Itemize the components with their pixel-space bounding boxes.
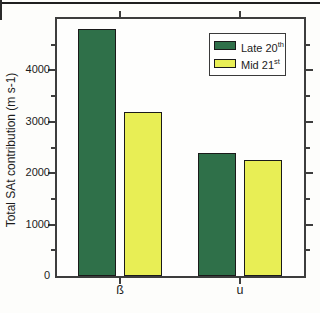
legend-label: Mid 21st (241, 56, 280, 71)
legend-swatch-yellow (214, 59, 236, 68)
bar-late-20th-u (198, 153, 236, 276)
y-tick-right (306, 44, 310, 46)
y-tick-right (306, 147, 310, 149)
top-rule-divider (0, 2, 320, 4)
y-tick-right (306, 121, 313, 123)
y-tick-left (51, 249, 55, 251)
y-tick-right (306, 172, 313, 174)
legend-label: Late 20th (241, 39, 284, 54)
bar-mid-21st-u (244, 160, 282, 276)
y-tick-label: 1000 (8, 218, 50, 231)
y-axis-label: Total SAt contribution (m s-1) (4, 73, 18, 228)
left-edge-fragment (0, 0, 2, 20)
y-tick-left (51, 44, 55, 46)
legend-item-late-20th: Late 20th (214, 39, 281, 54)
y-tick-label: 3000 (8, 115, 50, 128)
legend-swatch-dark-green (214, 41, 236, 50)
y-tick-label: 4000 (8, 63, 50, 76)
y-tick-right (306, 198, 310, 200)
legend: Late 20th Mid 21st (209, 33, 286, 76)
bar-late-20th-ß (78, 29, 116, 276)
y-tick-left (51, 95, 55, 97)
y-tick-right (306, 95, 310, 97)
legend-item-mid-21st: Mid 21st (214, 56, 281, 71)
x-tick-top (239, 11, 241, 17)
y-tick-label: 2000 (8, 166, 50, 179)
y-tick-left (51, 147, 55, 149)
y-tick-left (51, 198, 55, 200)
bar-mid-21st-ß (124, 112, 162, 276)
y-tick-right (306, 249, 310, 251)
y-tick-right (306, 224, 313, 226)
x-tick-label: ß (105, 283, 135, 297)
x-tick-top (119, 11, 121, 17)
y-tick-label: 0 (8, 269, 50, 282)
figure-page: Total SAt contribution (m s-1) Late 20th… (0, 0, 320, 313)
x-tick-label: u (225, 283, 255, 297)
y-tick-right (306, 69, 313, 71)
